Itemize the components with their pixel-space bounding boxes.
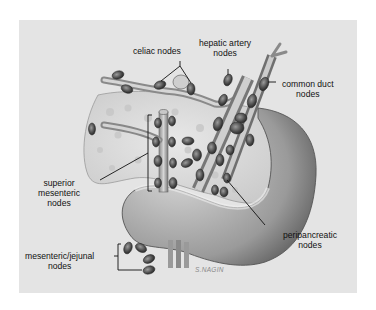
label-superior-mesenteric-nodes: superior mesenteric nodes — [38, 178, 80, 208]
label-celiac-nodes: celiac nodes — [133, 46, 181, 56]
label-common-duct-line1: common duct — [282, 79, 334, 89]
label-mesenteric-jejunal-nodes: mesenteric/jejunal nodes — [25, 251, 94, 271]
label-hepatic-line2: nodes — [199, 48, 251, 58]
label-superior-line2: mesenteric — [38, 188, 80, 198]
label-peripancreatic-line2: nodes — [283, 240, 337, 250]
label-common-duct-nodes: common duct nodes — [282, 79, 334, 99]
label-superior-line1: superior — [38, 178, 80, 188]
label-hepatic-artery-nodes: hepatic artery nodes — [199, 38, 251, 58]
label-hepatic-line1: hepatic artery — [199, 38, 251, 48]
label-peripancreatic-nodes: peripancreatic nodes — [283, 230, 337, 250]
label-common-duct-line2: nodes — [282, 89, 334, 99]
label-jejunal-line1: mesenteric/jejunal — [25, 251, 94, 261]
label-superior-line3: nodes — [38, 198, 80, 208]
artist-signature: S.NAGIN — [195, 266, 224, 273]
anatomy-illustration-panel: celiac nodes hepatic artery nodes common… — [19, 20, 357, 293]
label-peripancreatic-line1: peripancreatic — [283, 230, 337, 240]
mesenteric-vessels — [168, 240, 189, 268]
label-jejunal-line2: nodes — [25, 261, 94, 271]
